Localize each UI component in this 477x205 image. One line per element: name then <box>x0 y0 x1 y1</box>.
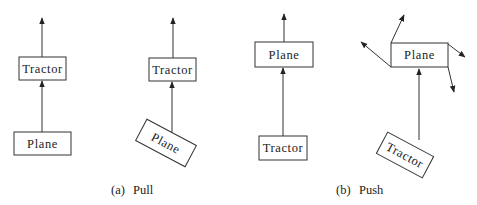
rotation-arrow-bottom-right <box>448 67 454 92</box>
tractor-label: Tractor <box>263 141 304 155</box>
tractor-label: Tractor <box>22 62 63 76</box>
caption-a: (a) Pull <box>111 183 154 197</box>
caption-a-tag: (a) <box>111 183 125 197</box>
caption-b: (b) Push <box>336 183 384 197</box>
pull-push-diagram: Tractor Plane Tractor Plane Plane Tracto… <box>0 0 477 205</box>
tilted-plane: Plane <box>136 119 197 166</box>
pull-config-straight: Tractor Plane <box>14 18 71 155</box>
plane-label: Plane <box>269 48 300 62</box>
push-config-straight: Plane Tractor <box>255 14 313 160</box>
caption-b-tag: (b) <box>336 183 351 197</box>
tractor-label: Tractor <box>152 63 193 77</box>
rotation-arrow-left <box>361 42 391 67</box>
tilted-tractor: Tractor <box>376 132 433 178</box>
push-config-tilted: Plane Tractor <box>361 15 465 178</box>
rotation-arrow-right <box>448 44 465 57</box>
plane-label: Plane <box>27 137 58 151</box>
plane-label: Plane <box>404 48 435 62</box>
caption-b-text: Push <box>359 183 384 197</box>
caption-a-text: Pull <box>133 183 154 197</box>
rotation-arrow-top-left <box>391 15 404 43</box>
pull-config-tilted: Tractor Plane <box>136 18 197 167</box>
